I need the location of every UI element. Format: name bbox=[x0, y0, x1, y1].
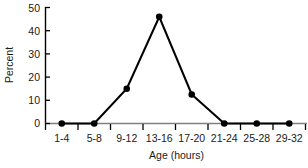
data-point-17-20 bbox=[188, 91, 195, 98]
y-tick-label-0: 0 bbox=[18, 118, 40, 128]
data-point-5-8 bbox=[91, 120, 98, 127]
data-point-29-32 bbox=[286, 120, 293, 127]
x-tick-marks bbox=[46, 124, 306, 130]
data-point-25-28 bbox=[253, 120, 260, 127]
data-point-markers bbox=[58, 13, 292, 126]
data-point-21-24 bbox=[221, 120, 228, 127]
y-tick-label-20: 20 bbox=[18, 72, 40, 82]
x-axis-title: Age (hours) bbox=[45, 149, 308, 161]
data-series-line bbox=[62, 17, 290, 124]
y-tick-label-50: 50 bbox=[18, 3, 40, 13]
y-tick-label-10: 10 bbox=[18, 95, 40, 105]
y-tick-label-40: 40 bbox=[18, 26, 40, 36]
y-tick-label-30: 30 bbox=[18, 49, 40, 59]
chart-figure: Percent 0 1 bbox=[0, 0, 308, 168]
data-point-13-16 bbox=[156, 13, 163, 20]
data-point-9-12 bbox=[123, 85, 130, 92]
data-point-1-4 bbox=[58, 120, 65, 127]
x-tick-label-29-32: 29-32 bbox=[269, 133, 308, 144]
